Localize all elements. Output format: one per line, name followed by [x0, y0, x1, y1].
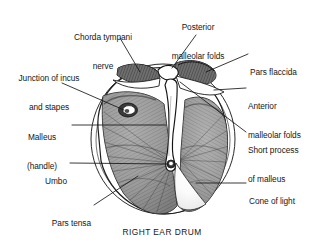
label-chorda-tympani-nerve-line1: Chorda tympani [57, 33, 149, 43]
label-malleus-handle-line1: Malleus [14, 133, 70, 143]
label-junction-of-incus-and-stapes-line1: Junction of incus [2, 74, 96, 84]
label-umbo: Umbo [10, 158, 67, 196]
label-pars-flaccida-line1: Pars flaccida [250, 68, 322, 78]
label-cone-of-light: Cone of light [249, 178, 323, 216]
label-posterior-malleolar-folds-line2: malleolar folds [152, 52, 244, 62]
label-short-process-of-malleus-line1: Short process [248, 146, 324, 156]
label-pars-flaccida: Pars flaccida [250, 49, 322, 87]
label-umbo-line1: Umbo [10, 177, 67, 187]
label-anterior-malleolar-folds-line1: Anterior [248, 102, 324, 112]
label-junction-of-incus-and-stapes-line2: and stapes [2, 103, 96, 113]
figure-caption: RIGHT EAR DRUM [0, 227, 324, 237]
incus-stapes-junction-marker [119, 103, 138, 117]
label-posterior-malleolar-folds-line1: Posterior [152, 23, 244, 33]
label-junction-of-incus-and-stapes: Junction of incus and stapes [2, 55, 96, 122]
label-cone-of-light-line1: Cone of light [249, 197, 323, 207]
label-posterior-malleolar-folds: Posterior malleolar folds [152, 4, 244, 71]
